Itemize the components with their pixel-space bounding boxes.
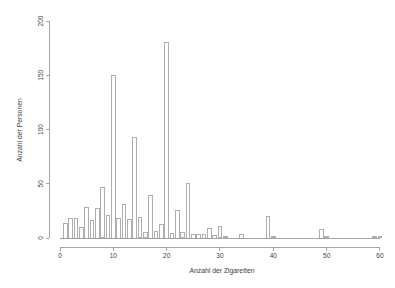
bar xyxy=(96,209,100,238)
y-tick-label: 150 xyxy=(37,69,44,80)
bar xyxy=(117,218,121,238)
y-tick-label: 100 xyxy=(37,124,44,135)
bar xyxy=(181,233,185,238)
y-tick-label: 50 xyxy=(37,180,44,188)
bar xyxy=(74,218,78,238)
bar xyxy=(101,187,105,238)
bar xyxy=(197,235,201,238)
bar xyxy=(149,196,153,238)
bar xyxy=(165,43,169,238)
x-tick-label: 30 xyxy=(216,252,224,259)
x-tick-label: 60 xyxy=(376,252,384,259)
bar xyxy=(160,225,164,238)
bar xyxy=(80,227,84,238)
x-tick-label: 40 xyxy=(270,252,278,259)
y-tick-label: 0 xyxy=(37,236,44,240)
bar xyxy=(192,235,196,238)
bar xyxy=(133,137,137,238)
y-axis: 050100150200 xyxy=(37,15,49,240)
x-tick-label: 50 xyxy=(323,252,331,259)
y-tick-label: 200 xyxy=(37,15,44,26)
bar xyxy=(122,204,126,238)
bar xyxy=(69,218,73,238)
bar xyxy=(85,208,89,238)
chart-plot-area: 050100150200 0102030405060 Anzahl der Zi… xyxy=(0,0,395,288)
x-tick-label: 10 xyxy=(110,252,118,259)
y-axis-title: Anzahl der Personen xyxy=(16,98,23,162)
bar xyxy=(106,215,110,238)
bar xyxy=(186,184,190,238)
x-tick-label: 0 xyxy=(58,252,62,259)
bar xyxy=(176,211,180,238)
bar xyxy=(128,220,132,238)
bar xyxy=(144,233,148,238)
bars-group xyxy=(60,43,382,238)
bar xyxy=(154,231,158,238)
bar xyxy=(138,217,142,238)
bar xyxy=(218,226,222,238)
bar xyxy=(202,235,206,238)
bar xyxy=(170,234,174,238)
bar xyxy=(266,216,270,238)
bar xyxy=(320,229,324,238)
bar xyxy=(240,235,244,238)
x-axis: 0102030405060 xyxy=(58,247,384,259)
bar xyxy=(208,228,212,238)
x-tick-label: 20 xyxy=(163,252,171,259)
histogram-svg: 050100150200 0102030405060 Anzahl der Zi… xyxy=(0,0,395,288)
bar xyxy=(64,224,68,238)
bar xyxy=(112,75,116,238)
bar xyxy=(90,221,94,238)
x-axis-title: Anzahl der Zigaretten xyxy=(190,267,255,275)
